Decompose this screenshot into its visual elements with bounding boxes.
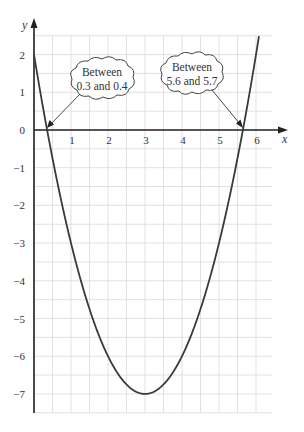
y-tick-label: 0 (20, 124, 26, 136)
callout-left-arrow-icon (47, 120, 54, 128)
callout-left-line2: 0.3 and 0.4 (76, 80, 127, 92)
x-tick-labels: 123456 (69, 134, 260, 146)
y-tick-label: 1 (20, 86, 26, 98)
axes: y x (21, 18, 288, 413)
y-tick-label: −4 (13, 275, 25, 287)
x-axis-label: x (281, 132, 288, 146)
x-tick-label: 2 (106, 134, 112, 146)
y-tick-label: −5 (13, 313, 25, 325)
y-axis-arrow-icon (31, 18, 38, 28)
callout-right-pointer (212, 90, 240, 124)
y-axis-label: y (21, 18, 28, 32)
y-tick-label: 2 (20, 49, 26, 61)
x-tick-label: 4 (180, 134, 186, 146)
callout-right-line1: Between (172, 61, 212, 73)
grid (34, 36, 272, 413)
cloud-bubble-icon (71, 57, 135, 100)
parabola-chart: y x 123456 210−1−2−3−4−5−6−7 Between 0.3… (0, 0, 304, 432)
y-tick-label: −6 (13, 350, 25, 362)
callout-right-line2: 5.6 and 5.7 (166, 75, 217, 87)
callout-left-line1: Between (82, 66, 122, 78)
x-tick-label: 5 (217, 134, 223, 146)
y-tick-label: −2 (13, 199, 25, 211)
callout-right: Between 5.6 and 5.7 (161, 52, 243, 128)
parabola-curve (34, 36, 259, 394)
x-tick-label: 1 (69, 134, 75, 146)
x-tick-label: 3 (143, 134, 149, 146)
y-tick-label: −3 (13, 237, 25, 249)
y-tick-label: −7 (13, 388, 25, 400)
y-tick-labels: 210−1−2−3−4−5−6−7 (13, 49, 25, 400)
x-tick-label: 6 (254, 134, 260, 146)
callout-left-pointer (50, 94, 80, 125)
y-tick-label: −1 (13, 162, 25, 174)
cloud-bubble-icon (161, 52, 224, 95)
